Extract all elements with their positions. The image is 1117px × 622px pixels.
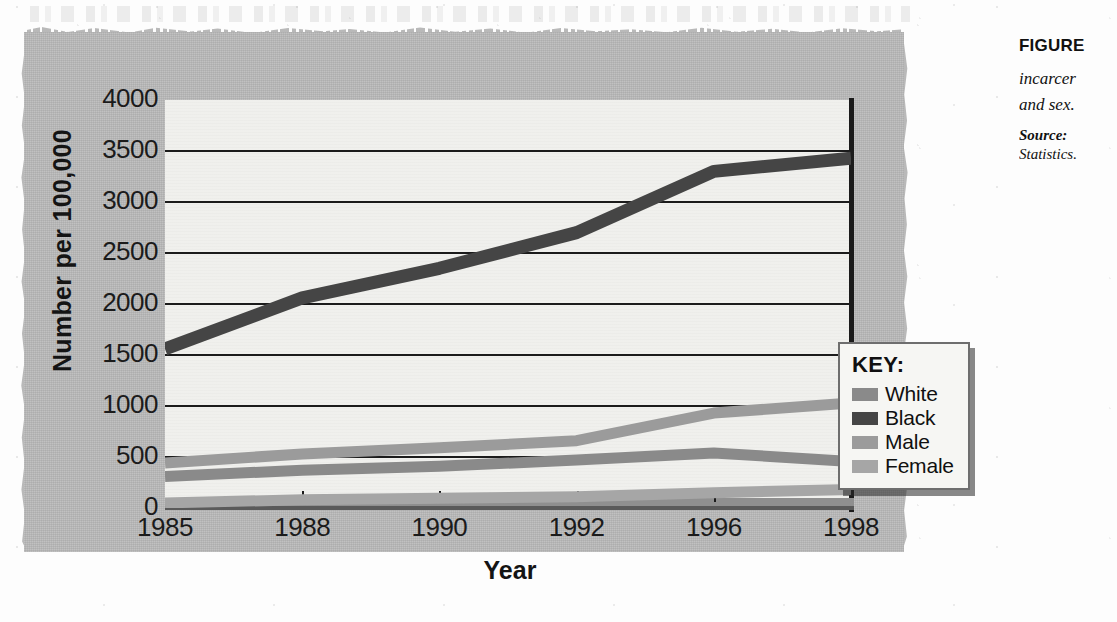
caption-figure-label: FIGURE	[1019, 36, 1117, 56]
caption-source: Source: Statistics.	[1019, 126, 1117, 165]
chart-series-lines	[165, 100, 851, 508]
figure-caption: FIGURE incarcer and sex. Source: Statist…	[1019, 36, 1117, 165]
x-axis-tick-label: 1996	[659, 512, 769, 543]
caption-source-line-2: Statistics.	[1019, 145, 1117, 165]
legend-title: KEY:	[840, 352, 968, 382]
chart-legend: KEY: WhiteBlackMaleFemale	[838, 342, 970, 490]
legend-label: Male	[885, 431, 930, 453]
x-axis-tick-label: 1990	[384, 512, 494, 543]
legend-item-white: White	[840, 382, 968, 406]
legend-item-male: Male	[840, 430, 968, 454]
caption-source-label: Source:	[1019, 126, 1117, 146]
legend-swatch-female	[852, 460, 878, 473]
legend-swatch-male	[852, 436, 878, 449]
legend-item-female: Female	[840, 454, 968, 478]
x-axis-tick-label: 1988	[247, 512, 357, 543]
y-axis-title: Number per 100,000	[48, 101, 77, 401]
caption-description: incarcer and sex.	[1019, 66, 1117, 119]
y-axis-tick-label: 500	[40, 440, 158, 471]
legend-label: White	[885, 383, 938, 405]
x-axis-tick-label: 1985	[110, 512, 220, 543]
legend-item-black: Black	[840, 406, 968, 430]
legend-label: Black	[885, 407, 935, 429]
x-axis-title: Year	[410, 556, 610, 585]
x-axis-tick-label: 1992	[522, 512, 632, 543]
legend-swatch-white	[852, 388, 878, 401]
legend-label: Female	[885, 455, 954, 477]
page-bleed-through-text	[30, 6, 910, 22]
series-line-female	[165, 490, 851, 503]
caption-description-line-1: incarcer	[1019, 66, 1117, 92]
legend-swatch-black	[852, 412, 878, 425]
x-axis-tick-label: 1998	[796, 512, 906, 543]
legend-rows: WhiteBlackMaleFemale	[840, 382, 968, 478]
series-line-black	[165, 158, 851, 349]
caption-description-line-2: and sex.	[1019, 92, 1117, 118]
